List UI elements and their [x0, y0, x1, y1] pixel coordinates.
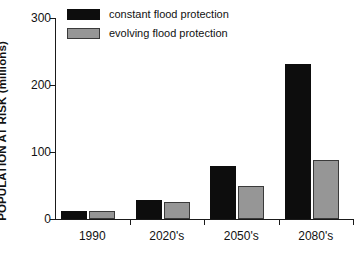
- x-tick-mark: [130, 219, 131, 225]
- bar-1990-constant: [61, 211, 87, 219]
- plot-area: 0100200300 19902020's2050's2080's: [55, 18, 353, 219]
- legend-label: constant flood protection: [109, 8, 229, 20]
- x-tick-label: 1990: [79, 229, 106, 243]
- y-axis-line: [55, 18, 56, 219]
- legend-item: evolving flood protection: [67, 27, 229, 39]
- legend-item: constant flood protection: [67, 8, 229, 20]
- x-tick-mark: [279, 219, 280, 225]
- bar-2080s-evolving: [313, 160, 339, 219]
- legend-label: evolving flood protection: [109, 27, 228, 39]
- bar-2050s-evolving: [238, 186, 264, 219]
- bar-2020s-constant: [136, 200, 162, 219]
- bar-2020s-evolving: [164, 202, 190, 219]
- chart-legend: constant flood protectionevolving flood …: [67, 8, 229, 39]
- y-axis-title: POPULATION AT RISK (millions): [0, 0, 18, 262]
- x-tick-label: 2080's: [298, 229, 333, 243]
- chart-figure: POPULATION AT RISK (millions) 0100200300…: [0, 0, 357, 262]
- y-tick-label: 100: [31, 145, 51, 159]
- legend-swatch-constant: [67, 9, 100, 20]
- bar-2080s-constant: [285, 64, 311, 219]
- y-tick-label: 200: [31, 78, 51, 92]
- y-tick-label: 0: [44, 212, 51, 226]
- x-tick-label: 2050's: [224, 229, 259, 243]
- x-tick-mark: [204, 219, 205, 225]
- legend-swatch-evolving: [67, 28, 100, 39]
- bar-1990-evolving: [89, 211, 115, 219]
- x-tick-label: 2020's: [149, 229, 184, 243]
- bar-2050s-constant: [210, 166, 236, 219]
- y-tick-label: 300: [31, 11, 51, 25]
- x-tick-mark: [353, 219, 354, 225]
